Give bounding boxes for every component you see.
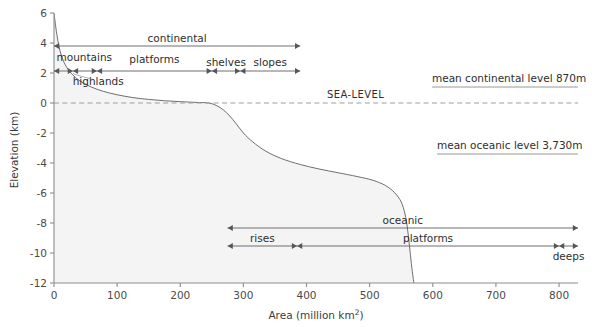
y-tick-label: -2 bbox=[37, 127, 47, 139]
x-tick-label: 200 bbox=[170, 289, 190, 301]
arrow-head-icon bbox=[212, 68, 217, 74]
sea-level-label: SEA-LEVEL bbox=[327, 89, 384, 100]
x-axis-ticks: 0100200300400500600700800 bbox=[51, 283, 569, 301]
annotation-label-rises: rises bbox=[250, 232, 275, 244]
annotation-label-highlands: highlands bbox=[73, 75, 124, 87]
arrow-head-icon bbox=[97, 68, 102, 74]
arrow-head-icon bbox=[295, 43, 300, 49]
y-tick-label: -10 bbox=[30, 247, 47, 259]
x-tick-label: 600 bbox=[423, 289, 443, 301]
annotation-shelves: shelves bbox=[206, 56, 246, 74]
arrow-head-icon bbox=[554, 243, 559, 249]
annotation-platforms: platforms bbox=[97, 53, 212, 74]
y-axis-ticks: 6420-2-4-6-8-10-12 bbox=[30, 7, 54, 289]
upper-annotations: continentalmountainshighlandsplatformssh… bbox=[54, 32, 300, 87]
y-axis-title: Elevation (km) bbox=[8, 112, 20, 189]
x-tick-label: 700 bbox=[486, 289, 506, 301]
y-tick-label: -6 bbox=[37, 187, 48, 199]
x-tick-label: 100 bbox=[107, 289, 127, 301]
y-tick-label: 0 bbox=[40, 97, 47, 109]
x-tick-label: 400 bbox=[297, 289, 317, 301]
hypsographic-curve-chart: 6420-2-4-6-8-10-12 010020030040050060070… bbox=[0, 0, 592, 327]
arrow-head-icon bbox=[559, 243, 564, 249]
annotation-label-mountains: mountains bbox=[57, 51, 113, 63]
y-tick-label: -8 bbox=[37, 217, 47, 229]
x-tick-label: 800 bbox=[549, 289, 569, 301]
mean-continental-level-label: mean continental level 870m bbox=[432, 72, 586, 84]
annotation-label-deeps: deeps bbox=[553, 250, 585, 262]
annotation-label-oceanic: oceanic bbox=[383, 214, 424, 226]
mean-oceanic-level-label: mean oceanic level 3,730m bbox=[437, 139, 582, 151]
annotation-label-shelves: shelves bbox=[206, 56, 246, 68]
arrow-head-icon bbox=[573, 243, 578, 249]
x-axis-title: Area (million km2) bbox=[268, 308, 363, 321]
arrow-head-icon bbox=[73, 68, 78, 74]
arrow-head-icon bbox=[207, 68, 212, 74]
annotation-continental: continental bbox=[54, 32, 300, 49]
arrow-head-icon bbox=[92, 68, 97, 74]
arrow-head-icon bbox=[295, 68, 300, 74]
mean-continental-level-group: mean continental level 870m bbox=[432, 72, 586, 87]
annotation-slopes: slopes bbox=[240, 56, 300, 74]
x-tick-label: 500 bbox=[360, 289, 380, 301]
y-tick-label: 2 bbox=[40, 67, 47, 79]
arrow-head-icon bbox=[235, 68, 240, 74]
chart-svg: 6420-2-4-6-8-10-12 010020030040050060070… bbox=[0, 0, 592, 327]
x-tick-label: 0 bbox=[51, 289, 58, 301]
arrow-head-icon bbox=[240, 68, 245, 74]
arrow-head-icon bbox=[573, 225, 578, 231]
annotation-label-platforms-oceanic: platforms bbox=[403, 232, 453, 244]
y-tick-label: 6 bbox=[40, 7, 47, 19]
y-tick-label: 4 bbox=[40, 37, 47, 49]
y-tick-label: -4 bbox=[37, 157, 48, 169]
mean-oceanic-level-group: mean oceanic level 3,730m bbox=[437, 139, 582, 154]
annotation-label-continental: continental bbox=[148, 32, 207, 44]
annotation-label-slopes: slopes bbox=[254, 56, 287, 68]
annotation-label-platforms: platforms bbox=[129, 53, 179, 65]
x-tick-label: 300 bbox=[233, 289, 253, 301]
y-tick-label: -12 bbox=[30, 277, 47, 289]
